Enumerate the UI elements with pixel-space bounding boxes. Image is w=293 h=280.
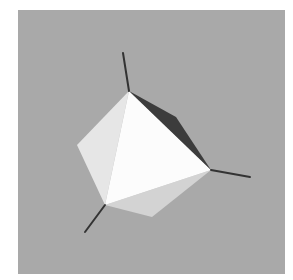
render-canvas xyxy=(0,0,293,280)
octahedron-render xyxy=(0,0,293,280)
